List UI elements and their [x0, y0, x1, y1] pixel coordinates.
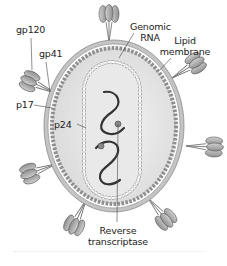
label-gp41: gp41	[39, 48, 62, 59]
capsid-p24	[84, 62, 140, 198]
label-genomic-rna-line1: Genomic	[130, 21, 170, 32]
label-lipid-membrane-line2: membrane	[158, 46, 212, 57]
label-p17: p17	[16, 99, 34, 110]
label-reverse-transcriptase-line2: transcriptase	[86, 236, 150, 247]
label-reverse-transcriptase: Reverse transcriptase	[86, 225, 150, 247]
label-lipid-membrane-line1: Lipid	[158, 35, 212, 46]
label-p24: p24	[54, 119, 72, 130]
label-lipid-membrane: Lipid membrane	[158, 35, 212, 57]
faint-caption-remnant	[14, 251, 204, 256]
label-gp120: gp120	[16, 24, 45, 35]
label-reverse-transcriptase-line1: Reverse	[86, 225, 150, 236]
